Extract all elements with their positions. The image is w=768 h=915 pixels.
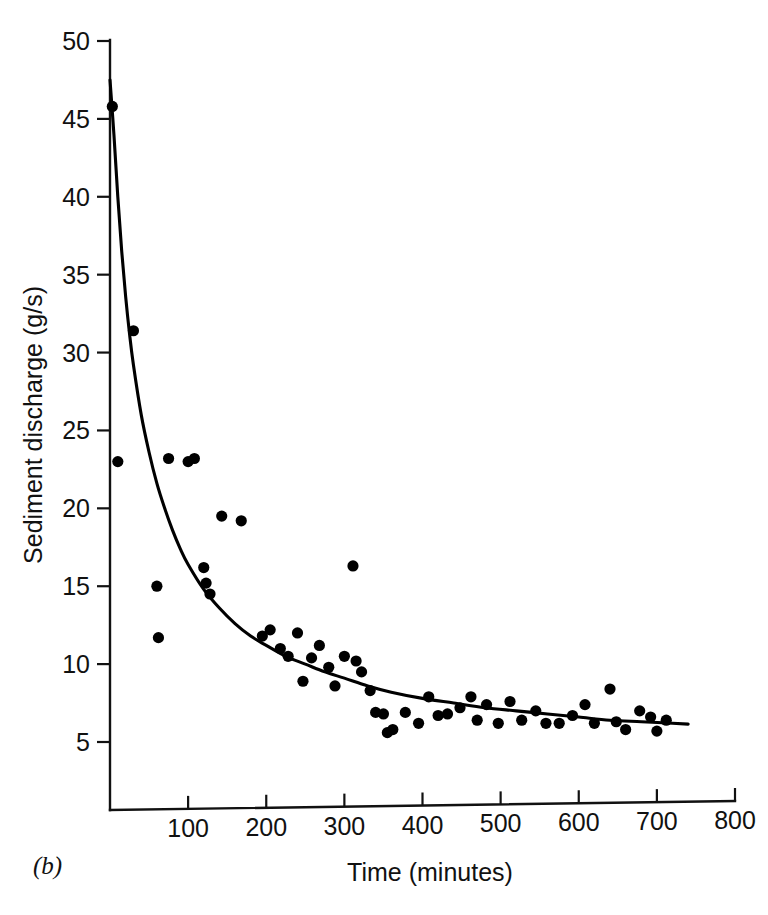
data-point: [365, 685, 376, 696]
data-point: [128, 325, 139, 336]
data-point: [634, 705, 645, 716]
data-point: [204, 588, 215, 599]
y-axis-title: Sediment discharge (g/s): [19, 286, 47, 564]
data-point: [216, 511, 227, 522]
data-point: [454, 702, 465, 713]
data-point: [292, 627, 303, 638]
x-tick-label: 600: [558, 808, 600, 836]
data-point: [540, 718, 551, 729]
data-point: [579, 699, 590, 710]
data-point: [465, 691, 476, 702]
y-axis-ticks: 5101520253035404550: [62, 27, 110, 756]
scatter-chart: 5101520253035404550 10020030040050060070…: [0, 0, 768, 915]
data-point: [493, 718, 504, 729]
data-point: [620, 724, 631, 735]
x-tick-label: 300: [324, 812, 366, 840]
data-point: [329, 680, 340, 691]
data-point: [163, 453, 174, 464]
data-point: [151, 581, 162, 592]
y-tick-label: 20: [62, 494, 90, 522]
data-point: [314, 640, 325, 651]
data-point: [604, 683, 615, 694]
data-point: [112, 456, 123, 467]
data-point: [347, 560, 358, 571]
data-point: [283, 651, 294, 662]
data-point: [378, 708, 389, 719]
data-point: [387, 724, 398, 735]
data-point: [153, 632, 164, 643]
data-point: [198, 562, 209, 573]
axes-group: [110, 40, 735, 810]
data-point: [306, 652, 317, 663]
data-point: [265, 624, 276, 635]
data-point: [516, 715, 527, 726]
data-point: [504, 696, 515, 707]
y-tick-label: 25: [62, 416, 90, 444]
data-point: [413, 718, 424, 729]
data-point: [433, 710, 444, 721]
x-tick-label: 200: [245, 813, 287, 841]
x-tick-label: 500: [480, 809, 522, 837]
x-axis-title: Time (minutes): [347, 858, 513, 886]
y-tick-label: 5: [76, 728, 90, 756]
figure-container: 5101520253035404550 10020030040050060070…: [0, 0, 768, 915]
data-point: [589, 718, 600, 729]
data-point: [297, 676, 308, 687]
data-point: [481, 699, 492, 710]
x-tick-label: 400: [402, 811, 444, 839]
x-tick-label: 800: [714, 806, 756, 834]
data-point: [189, 453, 200, 464]
y-tick-label: 10: [62, 650, 90, 678]
data-point: [400, 707, 411, 718]
y-tick-label: 35: [62, 261, 90, 289]
data-point: [350, 655, 361, 666]
y-tick-label: 50: [62, 27, 90, 55]
data-point: [530, 705, 541, 716]
data-point: [611, 716, 622, 727]
x-tick-label: 100: [167, 814, 209, 842]
y-tick-label: 30: [62, 339, 90, 367]
data-point: [356, 666, 367, 677]
data-point: [423, 691, 434, 702]
data-point: [651, 726, 662, 737]
data-point: [107, 101, 118, 112]
fitted-decay-curve: [110, 80, 688, 724]
data-point: [200, 578, 211, 589]
y-tick-label: 15: [62, 572, 90, 600]
data-point: [554, 718, 565, 729]
x-tick-label: 700: [636, 807, 678, 835]
y-tick-label: 40: [62, 183, 90, 211]
data-point: [442, 708, 453, 719]
x-axis-ticks: 100200300400500600700800: [167, 788, 756, 842]
data-point: [472, 715, 483, 726]
panel-label: (b): [33, 852, 62, 880]
data-point: [567, 710, 578, 721]
data-point-group: [107, 101, 672, 738]
y-tick-label: 45: [62, 105, 90, 133]
data-point: [236, 515, 247, 526]
data-point: [661, 715, 672, 726]
data-point: [323, 662, 334, 673]
data-point: [645, 711, 656, 722]
data-point: [339, 651, 350, 662]
